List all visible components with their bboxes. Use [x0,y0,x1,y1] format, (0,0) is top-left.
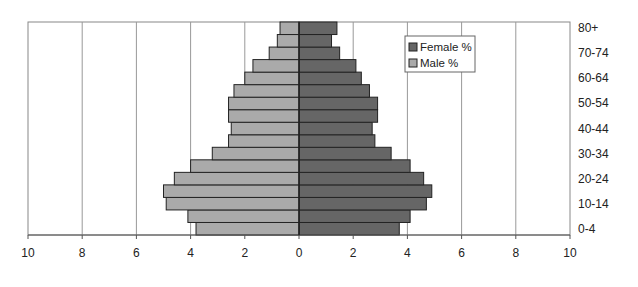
female-bar-35-39 [299,135,375,148]
female-bar-10-14 [299,197,426,210]
legend-swatch-male [409,59,417,67]
male-bar-5-9 [188,210,299,223]
male-bar-70-74 [269,47,299,60]
male-bar-30-34 [212,147,299,160]
category-label-0-4: 0-4 [578,222,596,236]
male-bar-80+ [280,22,299,35]
female-bar-45-49 [299,110,378,123]
female-bar-20-24 [299,172,424,185]
female-bar-70-74 [299,47,340,60]
category-label-40-44: 40-44 [578,122,609,136]
category-label-20-24: 20-24 [578,172,609,186]
legend-swatch-female [409,43,417,51]
female-bar-50-54 [299,97,378,110]
x-tick-label: 6 [133,246,140,260]
legend-label-male: Male % [420,57,458,69]
category-label-50-54: 50-54 [578,96,609,110]
population-pyramid-chart: 1086420246810 0-410-1420-2430-3440-4450-… [0,0,638,287]
x-tick-label: 6 [458,246,465,260]
male-bar-15-19 [164,185,300,198]
male-bar-50-54 [229,97,299,110]
category-label-60-64: 60-64 [578,71,609,85]
category-label-30-34: 30-34 [578,147,609,161]
x-tick-label: 4 [404,246,411,260]
male-bar-65-69 [253,60,299,73]
male-bar-10-14 [166,197,299,210]
x-tick-label: 8 [512,246,519,260]
x-tick-label: 2 [241,246,248,260]
female-bar-65-69 [299,60,356,73]
male-bar-75-79 [277,35,299,48]
female-bar-80+ [299,22,337,35]
male-bar-25-29 [191,160,299,173]
male-bar-40-44 [231,122,299,135]
female-bar-25-29 [299,160,410,173]
male-bar-45-49 [229,110,299,123]
female-bar-0-4 [299,222,399,235]
category-label-80+: 80+ [578,21,598,35]
male-bar-35-39 [229,135,299,148]
x-tick-label: 10 [21,246,35,260]
legend-label-female: Female % [420,41,472,53]
x-tick-label: 4 [187,246,194,260]
x-tick-label: 8 [79,246,86,260]
female-bar-40-44 [299,122,372,135]
x-tick-label: 2 [350,246,357,260]
female-bar-55-59 [299,85,369,98]
male-bar-0-4 [196,222,299,235]
female-bar-5-9 [299,210,410,223]
x-tick-label: 0 [296,246,303,260]
female-bar-15-19 [299,185,432,198]
female-bar-30-34 [299,147,391,160]
male-bar-55-59 [234,85,299,98]
male-bar-20-24 [174,172,299,185]
female-bar-60-64 [299,72,361,85]
x-tick-label: 10 [563,246,577,260]
category-label-70-74: 70-74 [578,46,609,60]
legend: Female % Male % [405,36,475,72]
x-tick-labels: 1086420246810 [21,246,577,260]
male-bar-60-64 [245,72,299,85]
category-labels: 0-410-1420-2430-3440-4450-5460-6470-7480… [578,21,609,235]
female-bar-75-79 [299,35,332,48]
category-label-10-14: 10-14 [578,197,609,211]
